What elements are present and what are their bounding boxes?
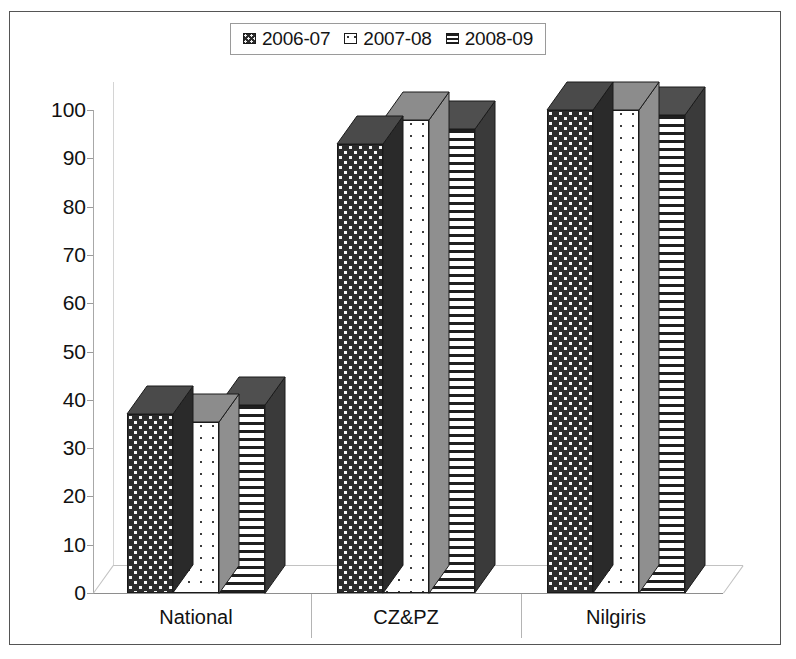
y-axis-tick-label: 90 — [28, 147, 86, 168]
y-axis-tick-label: 30 — [28, 437, 86, 458]
bar-front-face — [127, 414, 173, 593]
y-axis-tick-label: 100 — [28, 99, 86, 120]
x-axis-label-cz-pz: CZ&PZ — [326, 607, 486, 627]
y-axis-tick-mark — [87, 352, 93, 353]
bar-side-face — [685, 87, 705, 593]
y-axis-tick-label: 40 — [28, 389, 86, 410]
y-axis-tick-mark — [87, 303, 93, 304]
floor-depth-line — [723, 565, 744, 594]
bar-side-face — [265, 377, 285, 593]
y-axis-tick-label: 10 — [28, 534, 86, 555]
y-axis-tick-mark — [87, 207, 93, 208]
y-axis-tick-label: 80 — [28, 196, 86, 217]
y-axis-tick-label: 70 — [28, 244, 86, 265]
bar-front-face — [337, 144, 383, 593]
y-axis-tick-mark — [87, 255, 93, 256]
y-axis-tick-mark — [87, 545, 93, 546]
y-axis-tick-label: 50 — [28, 341, 86, 362]
x-axis-separator — [521, 594, 522, 638]
bar-side-face — [639, 82, 659, 593]
back-wall-line — [113, 82, 114, 566]
y-axis-tick-label: 0 — [28, 582, 86, 603]
bar-cz-pz-2006-07 — [337, 116, 383, 593]
chart-root: 2006-07 2007-08 2008-09 1009080706050403… — [0, 0, 796, 659]
floor-depth-line — [93, 565, 114, 594]
plot-area: 1009080706050403020100 NationalCZ&PZNilg… — [0, 0, 796, 659]
y-axis-tick-mark — [87, 496, 93, 497]
bar-side-face — [383, 116, 403, 593]
bar-side-face — [429, 92, 449, 593]
bar-nilgiris-2006-07 — [547, 82, 593, 593]
y-axis-tick-mark — [87, 593, 93, 594]
bar-side-face — [219, 394, 239, 593]
x-axis-label-nilgiris: Nilgiris — [536, 607, 696, 627]
x-axis-label-national: National — [116, 607, 276, 627]
y-axis-tick-mark — [87, 448, 93, 449]
y-axis-tick-mark — [87, 158, 93, 159]
y-axis-tick-mark — [87, 400, 93, 401]
bar-side-face — [475, 101, 495, 593]
bar-side-face — [173, 386, 193, 593]
y-axis-line — [93, 110, 94, 594]
y-axis-tick-label: 20 — [28, 485, 86, 506]
bar-side-face — [593, 82, 613, 593]
bar-national-2006-07 — [127, 386, 173, 593]
x-axis-separator — [311, 594, 312, 638]
y-axis-tick-label: 60 — [28, 292, 86, 313]
bar-front-face — [547, 110, 593, 593]
y-axis-tick-mark — [87, 110, 93, 111]
